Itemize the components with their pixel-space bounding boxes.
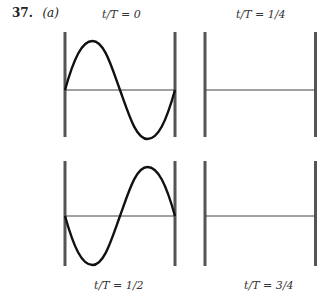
- panel-t3-4: [204, 161, 318, 266]
- panel-t1-4: [204, 32, 318, 137]
- standing-wave-diagram: [0, 0, 333, 298]
- right-wall: [314, 32, 317, 137]
- panel-t1-2: [64, 161, 177, 266]
- left-wall: [204, 32, 207, 137]
- right-wall: [174, 32, 177, 137]
- left-wall: [64, 161, 67, 266]
- right-wall: [314, 161, 317, 266]
- panel-t0: [64, 32, 177, 139]
- left-wall: [204, 161, 207, 266]
